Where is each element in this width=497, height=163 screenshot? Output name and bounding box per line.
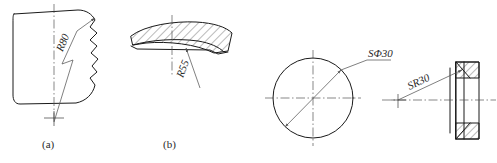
- part-d-center-cross: [391, 94, 406, 108]
- part-b-caption: (b): [163, 138, 176, 151]
- part-c-group: SΦ30: [265, 47, 393, 146]
- part-b-section-fill: [131, 22, 232, 53]
- part-a-caption: (a): [42, 138, 55, 151]
- part-c-dimension-label: SΦ30: [368, 47, 393, 59]
- part-a-dimension-label: R80: [53, 31, 72, 53]
- part-d-group: SR30: [382, 62, 496, 139]
- technical-drawing-canvas: R80 (a) R55 (b): [0, 0, 497, 163]
- part-b-group: R55 (b): [131, 15, 232, 151]
- part-d-dimension-label: SR30: [405, 71, 432, 92]
- part-a-center-cross: [44, 111, 64, 126]
- part-c-leader-shoulder: [341, 60, 391, 70]
- part-a-outline: [13, 10, 98, 104]
- part-b-dimension-label: R55: [173, 58, 191, 80]
- part-a-group: R80 (a): [13, 4, 98, 151]
- drawing-sheet: R80 (a) R55 (b): [0, 0, 497, 163]
